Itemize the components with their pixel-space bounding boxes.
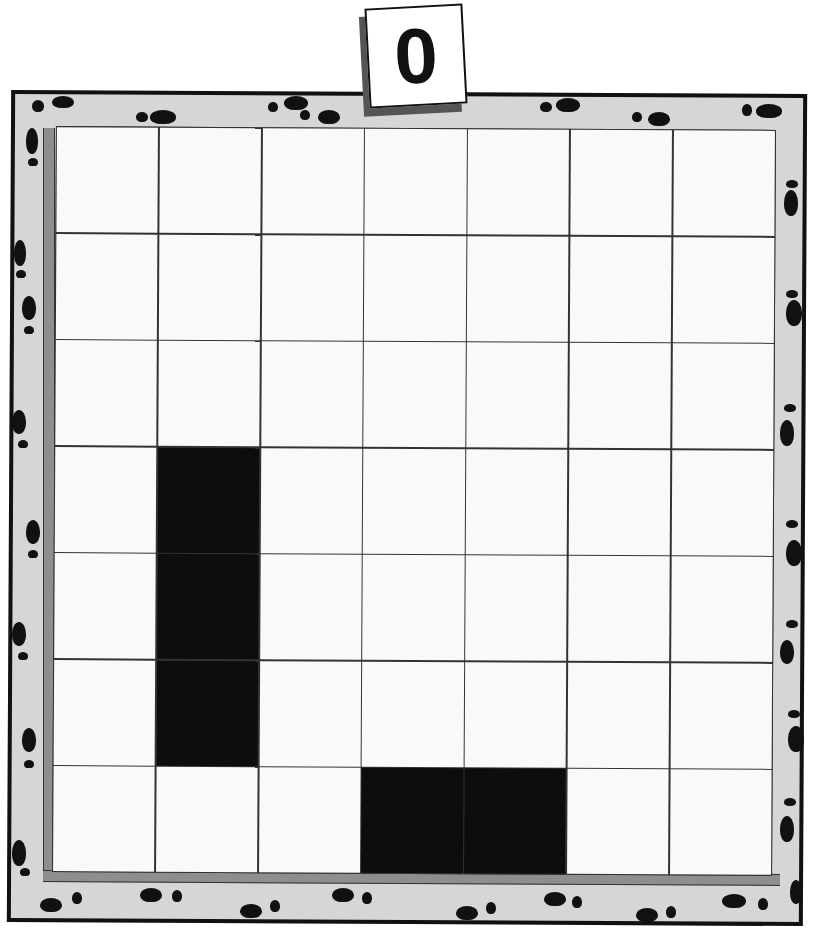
footprint-icon (556, 98, 580, 112)
grid-cell-r5-c4[interactable] (363, 555, 465, 661)
footprint-icon (786, 520, 798, 528)
grid-cell-r1-c6[interactable] (570, 130, 672, 236)
grid-cell-r4-c6[interactable] (569, 449, 671, 555)
footprint-icon (544, 892, 566, 906)
footprint-icon (788, 726, 804, 752)
footprint-icon (22, 296, 36, 320)
grid-cell-r6-c5[interactable] (465, 662, 567, 768)
footprint-icon (486, 902, 496, 914)
footprint-icon (784, 190, 798, 216)
grid-cell-r4-c4[interactable] (363, 448, 465, 554)
footprint-icon (786, 540, 802, 566)
footprint-icon (786, 620, 798, 628)
footprint-icon (666, 906, 676, 918)
footprint-icon (456, 906, 478, 920)
grid-cell-r3-c1[interactable] (55, 340, 157, 446)
grid-cell-r4-c7[interactable] (671, 450, 773, 556)
footprint-icon (756, 104, 782, 118)
footprint-icon (72, 892, 82, 904)
grid-cell-r7-c7[interactable] (670, 769, 772, 875)
grid-cell-r4-c2[interactable] (158, 447, 260, 553)
footprint-icon (742, 104, 752, 116)
grid-cell-r2-c6[interactable] (570, 236, 672, 342)
grid-cell-r1-c1[interactable] (56, 127, 158, 233)
footprint-icon (758, 898, 768, 910)
score-value: 0 (392, 9, 440, 102)
footprint-icon (20, 868, 30, 876)
puzzle-grid[interactable] (52, 126, 776, 876)
grid-cell-r1-c3[interactable] (262, 128, 364, 234)
grid-cell-r3-c5[interactable] (466, 342, 568, 448)
grid-cell-r2-c4[interactable] (364, 235, 466, 341)
footprint-icon (786, 300, 802, 326)
grid-cell-r3-c7[interactable] (672, 343, 774, 449)
grid-cell-r1-c4[interactable] (365, 129, 467, 235)
grid-cell-r3-c3[interactable] (261, 341, 363, 447)
grid-cell-r5-c6[interactable] (568, 556, 670, 662)
grid-cell-r4-c1[interactable] (55, 447, 157, 553)
footprint-icon (140, 888, 162, 902)
grid-cell-r2-c3[interactable] (261, 235, 363, 341)
footprint-icon (284, 96, 308, 110)
footprint-icon (52, 96, 74, 108)
grid-cell-r2-c5[interactable] (467, 236, 569, 342)
footprint-icon (790, 880, 802, 904)
grid-cell-r6-c1[interactable] (54, 660, 156, 766)
footprint-icon (136, 112, 148, 122)
score-tile: 0 (364, 4, 467, 109)
footprint-icon (722, 894, 746, 908)
footprint-icon (172, 890, 182, 902)
footprint-icon (18, 652, 28, 660)
grid-cell-r6-c7[interactable] (670, 663, 772, 769)
footprint-icon (300, 110, 310, 120)
footprint-icon (24, 326, 34, 334)
footprint-icon (14, 240, 26, 266)
footprint-icon (780, 816, 794, 842)
grid-cell-r1-c7[interactable] (673, 130, 775, 236)
grid-cell-r4-c5[interactable] (466, 449, 568, 555)
grid-cell-r1-c5[interactable] (468, 129, 570, 235)
grid-cell-r3-c4[interactable] (364, 342, 466, 448)
grid-cell-r7-c2[interactable] (156, 767, 258, 873)
grid-cell-r4-c3[interactable] (260, 448, 362, 554)
footprint-icon (268, 102, 278, 112)
grid-cell-r5-c7[interactable] (671, 556, 773, 662)
grid-cell-r6-c4[interactable] (362, 661, 464, 767)
grid-cell-r2-c2[interactable] (159, 234, 261, 340)
grid-cell-r6-c6[interactable] (568, 662, 670, 768)
footprint-icon (780, 640, 794, 664)
footprint-icon (24, 760, 34, 768)
footprint-icon (780, 420, 794, 446)
grid-cell-r7-c5[interactable] (464, 768, 566, 874)
footprint-icon (332, 888, 354, 902)
grid-cell-r2-c1[interactable] (56, 234, 158, 340)
footprint-icon (28, 550, 38, 558)
grid-cell-r3-c2[interactable] (158, 341, 260, 447)
grid-cell-r2-c7[interactable] (673, 237, 775, 343)
grid-cell-r5-c5[interactable] (465, 555, 567, 661)
grid-cell-r7-c4[interactable] (361, 768, 463, 874)
footprint-icon (784, 404, 796, 412)
grid-cell-r3-c6[interactable] (569, 343, 671, 449)
footprint-icon (636, 908, 658, 922)
footprint-icon (318, 110, 340, 124)
grid-cell-r7-c1[interactable] (53, 766, 155, 872)
footprint-icon (12, 622, 26, 646)
footprint-icon (784, 798, 796, 806)
footprint-icon (540, 102, 552, 112)
grid-cell-r7-c3[interactable] (259, 767, 361, 873)
grid-cell-r6-c3[interactable] (259, 661, 361, 767)
grid-cell-r7-c6[interactable] (567, 769, 669, 875)
footprint-icon (26, 128, 38, 154)
footprint-icon (788, 710, 800, 718)
grid-cell-r5-c2[interactable] (157, 554, 259, 660)
grid-cell-r5-c3[interactable] (260, 554, 362, 660)
footprint-icon (572, 896, 582, 908)
footprint-icon (362, 892, 372, 904)
footprint-icon (150, 110, 176, 124)
footprint-icon (18, 440, 28, 448)
grid-cell-r5-c1[interactable] (54, 553, 156, 659)
grid-cell-r6-c2[interactable] (156, 660, 258, 766)
footprint-icon (786, 180, 798, 188)
grid-cell-r1-c2[interactable] (159, 128, 261, 234)
